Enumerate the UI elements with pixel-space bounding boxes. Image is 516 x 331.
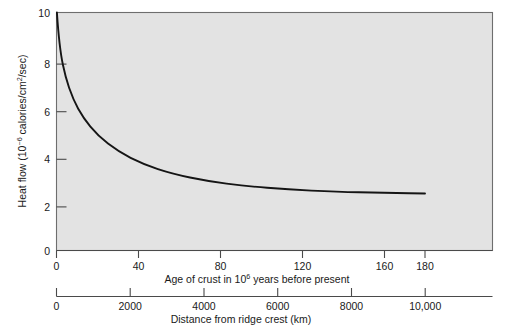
svg-text:Heat flow (10−6 calories/cm2/s: Heat flow (10−6 calories/cm2/sec) [15, 55, 28, 208]
distance-tick-label-10000: 10,000 [409, 300, 441, 312]
y-axis-title-middle: calories/cm [16, 81, 28, 137]
y-tick-label-0: 0 [44, 245, 50, 257]
distance-tick-label-8000: 8000 [340, 300, 364, 312]
x-tick-label-180: 180 [416, 260, 434, 272]
distance-tick-label-6000: 6000 [266, 300, 290, 312]
distance-tick-label-4000: 4000 [192, 300, 216, 312]
x-tick-label-80: 80 [215, 260, 227, 272]
x-axis-title-suffix: years before present [250, 273, 349, 285]
y-axis-title-prefix: Heat flow (10 [16, 145, 28, 207]
secondary-x-axis-title: Distance from ridge crest (km) [171, 313, 312, 325]
heat-flow-figure: 10 8 6 4 2 0 Heat flow (10−6 calories/cm… [0, 0, 516, 331]
y-tick-label-8: 8 [44, 58, 50, 70]
x-tick-label-160: 160 [376, 260, 394, 272]
distance-tick-label-0: 0 [54, 300, 60, 312]
plot-area-background [57, 13, 493, 251]
chart-svg: 10 8 6 4 2 0 Heat flow (10−6 calories/cm… [0, 0, 516, 331]
x-tick-label-120: 120 [294, 260, 312, 272]
primary-x-axis-title: Age of crust in 106 years before present [165, 272, 350, 285]
y-tick-label-2: 2 [44, 201, 50, 213]
y-tick-label-10: 10 [38, 7, 50, 19]
y-axis-title-suffix: /sec) [16, 55, 28, 78]
y-tick-label-4: 4 [44, 153, 50, 165]
distance-tick-label-2000: 2000 [119, 300, 143, 312]
y-axis-title: Heat flow (10−6 calories/cm2/sec) [15, 55, 28, 208]
y-axis-title-exponent: −6 [15, 137, 24, 145]
x-tick-label-40: 40 [133, 260, 145, 272]
x-tick-label-0: 0 [54, 260, 60, 272]
y-tick-label-6: 6 [44, 106, 50, 118]
x-axis-title-prefix: Age of crust in 10 [165, 273, 247, 285]
